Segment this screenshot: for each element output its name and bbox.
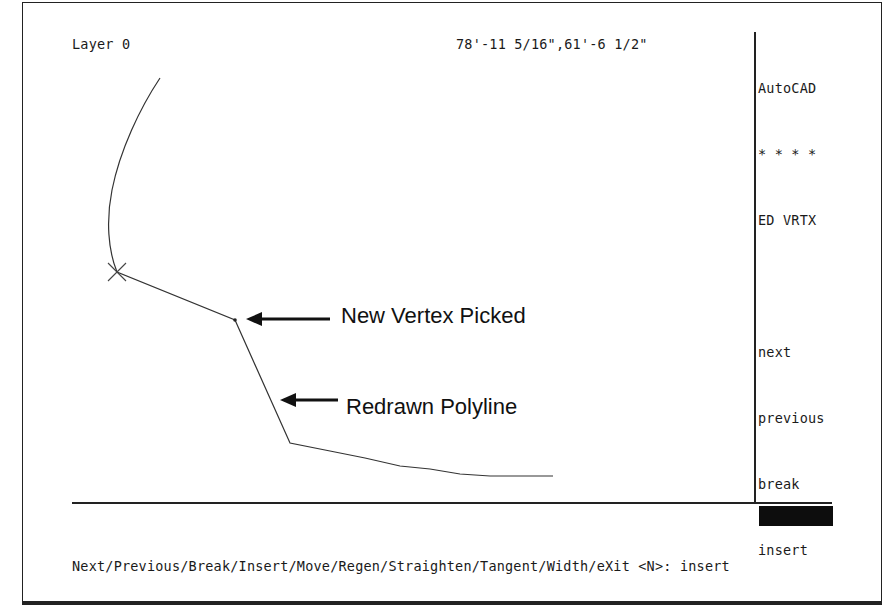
command-history-line: Next/Previous/Break/Insert/Move/Regen/St… [72,555,730,577]
command-area-divider [72,502,832,504]
new-vertex-point-icon [233,318,237,322]
menu-item-previous[interactable]: previous [758,407,838,429]
menu-item-move[interactable]: move [758,605,838,612]
side-menu-divider [754,32,756,502]
arrow-left-icon [246,312,330,326]
menu-item-next[interactable]: next [758,341,838,363]
menu-header-autocad[interactable]: AutoCAD [758,77,838,99]
arrow-left-icon [280,393,338,407]
annotation-new-vertex: New Vertex Picked [341,303,526,329]
screen-menu: AutoCAD * * * * ED VRTX next previous br… [758,33,838,612]
menu-item-insert[interactable]: insert [758,539,838,561]
menu-stars[interactable]: * * * * [758,143,838,165]
menu-item-break[interactable]: break [758,473,838,495]
menu-highlight-bar[interactable] [759,506,833,526]
menu-title-ed-vrtx: ED VRTX [758,209,838,231]
command-prompt-area[interactable]: Next/Previous/Break/Insert/Move/Regen/St… [72,511,730,612]
vertex-x-marker-icon [108,263,126,281]
annotation-redrawn-polyline: Redrawn Polyline [346,394,517,420]
